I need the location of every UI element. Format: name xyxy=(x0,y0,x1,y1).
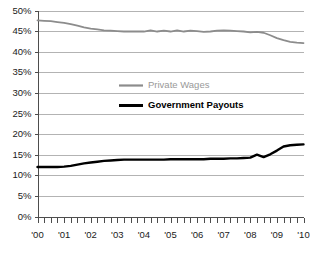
x-axis-labels: '00'01'02'03'04'05'06'07'08'09'10 xyxy=(31,229,309,240)
x-tick-label: '05 xyxy=(164,229,176,240)
y-tick-label: 30% xyxy=(12,87,32,98)
x-tick-label: '08 xyxy=(244,229,256,240)
x-tick-label: '07 xyxy=(218,229,230,240)
x-tick-label: '01 xyxy=(58,229,70,240)
y-tick-label: 5% xyxy=(18,190,32,201)
y-axis-labels: 50%45%40%35%30%25%20%15%10%5%0% xyxy=(12,5,32,222)
x-tick-label: '06 xyxy=(191,229,203,240)
y-tick-label: 50% xyxy=(12,5,32,16)
y-tick-label: 0% xyxy=(18,211,32,222)
x-axis-minor-ticks xyxy=(39,218,305,223)
chart-container: 50%45%40%35%30%25%20%15%10%5%0% '00'01'0… xyxy=(0,0,313,256)
x-tick-label: '02 xyxy=(85,229,97,240)
x-tick-label: '03 xyxy=(111,229,123,240)
gridlines xyxy=(35,12,304,218)
legend-label-government-payouts: Government Payouts xyxy=(148,99,244,110)
y-tick-label: 25% xyxy=(12,108,32,119)
legend-label-private-wages: Private Wages xyxy=(148,79,210,90)
y-tick-label: 45% xyxy=(12,25,32,36)
y-tick-label: 15% xyxy=(12,149,32,160)
x-tick-label: '10 xyxy=(297,229,309,240)
line-chart: 50%45%40%35%30%25%20%15%10%5%0% '00'01'0… xyxy=(0,0,313,256)
y-tick-label: 20% xyxy=(12,128,32,139)
x-tick-label: '09 xyxy=(271,229,283,240)
y-tick-label: 10% xyxy=(12,169,32,180)
y-tick-label: 35% xyxy=(12,66,32,77)
y-tick-label: 40% xyxy=(12,46,32,57)
x-tick-label: '04 xyxy=(138,229,150,240)
chart-legend: Private Wages Government Payouts xyxy=(119,79,244,110)
x-tick-label: '00 xyxy=(31,229,43,240)
